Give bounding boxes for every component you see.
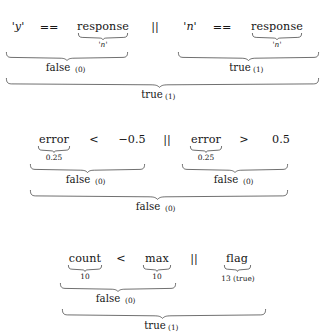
underbrace-subexpr-left-2 xyxy=(30,164,145,173)
annotation-error-2-value: 0.25 xyxy=(198,154,215,161)
result-subexpr-left-3-word: false xyxy=(96,294,120,304)
token-operator-lt-1: < xyxy=(89,134,98,145)
expression-block-2: error < −0.5 || error > 0.5 0.25 0.25 fa… xyxy=(0,120,323,225)
token-identifier-count: count xyxy=(69,253,101,264)
token-identifier-error-2: error xyxy=(191,134,221,145)
annotation-response-1-value: 'n' xyxy=(99,41,108,48)
token-identifier-flag: flag xyxy=(226,253,248,264)
token-literal-y: 'y' xyxy=(12,21,24,32)
token-operator-or-3: || xyxy=(190,253,198,264)
result-subexpr-right-1-word: true xyxy=(229,63,251,73)
result-subexpr-left-1-value: (0) xyxy=(75,66,85,73)
token-operator-lt-2: < xyxy=(116,253,125,264)
underbrace-final-3 xyxy=(62,309,266,319)
token-identifier-max: max xyxy=(145,253,169,264)
result-final-1-value: (1) xyxy=(165,93,175,100)
underbrace-response-2 xyxy=(252,33,302,40)
token-number-neg-half: −0.5 xyxy=(118,134,145,145)
underbrace-final-1 xyxy=(6,78,319,88)
result-final-3-word: true xyxy=(144,321,166,331)
result-final-3-value: (1) xyxy=(168,324,178,331)
underbrace-max xyxy=(143,265,171,272)
result-subexpr-right-2-word: false xyxy=(214,175,238,185)
result-subexpr-left-1-word: false xyxy=(46,63,70,73)
token-number-half: 0.5 xyxy=(272,134,290,145)
token-operator-eq-1: == xyxy=(40,22,59,33)
result-final-2-word: false xyxy=(136,202,160,212)
result-subexpr-left-2-word: false xyxy=(66,175,90,185)
result-subexpr-right-1-value: (1) xyxy=(253,66,263,73)
annotation-max-value: 10 xyxy=(152,273,162,280)
result-final-1-word: true xyxy=(141,90,163,100)
token-operator-gt: > xyxy=(239,134,248,145)
underbrace-subexpr-left-1 xyxy=(6,52,128,61)
annotation-response-2-value: 'n' xyxy=(273,41,282,48)
result-subexpr-left-3-value: (0) xyxy=(125,297,135,304)
underbrace-count xyxy=(68,265,102,272)
underbrace-subexpr-left-3 xyxy=(60,283,176,292)
underbrace-subexpr-right-2 xyxy=(182,164,288,173)
token-identifier-response-1: response xyxy=(77,21,129,32)
token-operator-eq-2: == xyxy=(213,22,232,33)
token-identifier-error-1: error xyxy=(39,134,69,145)
token-literal-n: 'n' xyxy=(183,21,196,32)
underbrace-error-1 xyxy=(38,146,70,153)
underbrace-final-2 xyxy=(30,190,288,200)
underbrace-flag xyxy=(224,265,251,272)
annotation-count-value: 10 xyxy=(80,273,90,280)
annotation-error-1-value: 0.25 xyxy=(46,154,63,161)
token-operator-or-1: || xyxy=(151,21,159,32)
annotation-flag-value: 13 (true) xyxy=(221,275,255,282)
underbrace-response-1 xyxy=(78,33,128,40)
result-subexpr-left-2-value: (0) xyxy=(95,178,105,185)
token-operator-or-2: || xyxy=(163,134,171,145)
underbrace-subexpr-right-1 xyxy=(178,52,319,61)
expression-block-1: 'y' == response || 'n' == response 'n' '… xyxy=(0,0,323,110)
token-identifier-response-2: response xyxy=(251,21,303,32)
expression-block-3: count < max || flag 10 10 13 (true) xyxy=(0,243,323,327)
result-final-2-value: (0) xyxy=(165,205,175,212)
result-subexpr-right-2-value: (0) xyxy=(243,178,253,185)
underbrace-error-2 xyxy=(190,146,222,153)
